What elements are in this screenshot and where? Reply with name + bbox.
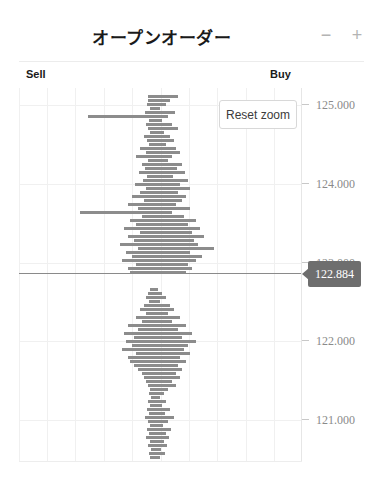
current-price-marker: 122.884 bbox=[308, 261, 361, 287]
reset-zoom-button[interactable]: Reset zoom bbox=[219, 100, 297, 129]
zoom-in-button[interactable]: + bbox=[346, 24, 368, 46]
axis-tick-label: 125.000 bbox=[316, 98, 355, 113]
sell-side-label: Sell bbox=[26, 68, 46, 80]
axis-tick-label: 121.000 bbox=[316, 413, 355, 428]
zoom-out-button[interactable]: − bbox=[315, 24, 337, 46]
buy-side-label: Buy bbox=[270, 68, 291, 80]
current-price-line bbox=[19, 273, 302, 274]
open-orders-widget: オープンオーダー − + Sell Buy 125.000124.000123.… bbox=[0, 0, 382, 494]
axis-tick-dash bbox=[302, 419, 309, 420]
axis-tick-label: 124.000 bbox=[316, 177, 355, 192]
depth-chart-plot[interactable] bbox=[19, 88, 302, 462]
axis-tick-dash bbox=[302, 183, 309, 184]
chart-overlay bbox=[19, 88, 302, 462]
axis-tick-dash bbox=[302, 104, 309, 105]
plot-bottom-edge bbox=[19, 461, 302, 462]
page-title: オープンオーダー bbox=[19, 24, 304, 49]
widget-header: オープンオーダー − + bbox=[19, 12, 364, 62]
axis-tick-label: 122.000 bbox=[316, 334, 355, 349]
axis-tick-dash bbox=[302, 340, 309, 341]
